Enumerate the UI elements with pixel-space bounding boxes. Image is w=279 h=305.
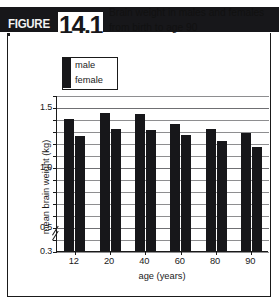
bar-female-80 [217,141,227,251]
gridline [57,204,269,205]
bar-female-12 [75,136,85,251]
x-axis-tick-label: 20 [94,256,124,266]
y-axis-tick [53,108,57,109]
figure-word-label: FIGURE [8,17,50,31]
bar-group [206,95,227,251]
x-axis-tick [110,251,111,255]
y-axis-tick [53,252,57,253]
y-axis-tick [53,156,57,157]
gridline [57,216,269,217]
legend-label-male: male [75,58,95,73]
gridline [57,168,269,169]
gridline [57,180,269,181]
legend-item-male: male [63,58,117,73]
y-axis-tick [53,96,57,97]
gridline [57,108,269,109]
legend-item-female: female [63,73,117,88]
chart-legend: malefemale [62,57,118,90]
y-axis-tick [53,216,57,217]
x-axis-tick-label: 90 [235,256,265,266]
legend-swatch-male [62,58,71,73]
bar-group [100,95,121,251]
bar-group [241,95,262,251]
figure-caption: Brain weight in males and females from b… [109,6,277,35]
figure-caption-line-1: Brain weight in males and females [109,6,277,21]
chart-plot-area [56,96,268,252]
bar-group [135,95,156,251]
legend-swatch-female [62,73,71,88]
y-axis-title: mean brain weight (kg) [41,107,51,267]
gridline [57,192,269,193]
y-axis-tick [53,168,57,169]
y-axis-tick [53,240,57,241]
gridline [57,96,269,97]
y-axis-tick [53,132,57,133]
bar-male-12 [64,119,74,251]
bar-male-60 [170,124,180,251]
bar-group [64,95,85,251]
y-axis-tick [53,192,57,193]
bar-male-20 [100,113,110,251]
bar-female-20 [111,129,121,251]
gridline [57,252,269,253]
gridline [57,228,269,229]
x-axis-tick [181,251,182,255]
x-axis-tick-label: 80 [200,256,230,266]
gridline [57,120,269,121]
gridline [57,132,269,133]
bar-female-90 [252,147,262,251]
y-axis-title-wrap: mean brain weight (kg) [18,96,32,252]
y-axis-tick [53,180,57,181]
x-axis-tick [145,251,146,255]
x-axis-tick [216,251,217,255]
y-axis-tick [53,204,57,205]
figure-border-corner [7,33,10,36]
gridline [57,240,269,241]
bar-group [170,95,191,251]
gridline [57,156,269,157]
y-axis-tick [53,120,57,121]
x-axis-tick-label: 40 [129,256,159,266]
x-axis-title: age (years) [56,271,268,281]
bar-male-40 [135,114,145,251]
gridline [57,144,269,145]
bar-female-60 [181,135,191,251]
y-axis-tick [53,228,57,229]
x-axis-tick [75,251,76,255]
legend-label-female: female [75,73,103,88]
x-axis-tick-label: 12 [59,256,89,266]
bar-male-90 [241,133,251,251]
x-axis-labels: 122040608090 [56,256,268,270]
x-axis-tick-label: 60 [165,256,195,266]
x-axis-tick [251,251,252,255]
bar-male-80 [206,129,216,251]
bar-female-40 [146,130,156,251]
y-axis-tick [53,144,57,145]
